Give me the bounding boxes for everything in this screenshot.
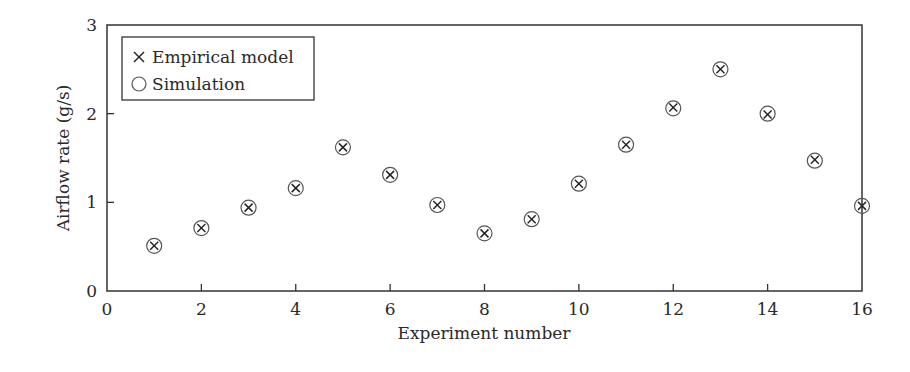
empirical-model-point	[433, 201, 441, 209]
empirical-model-point	[245, 204, 253, 212]
empirical-model-point	[764, 111, 772, 119]
scatter-chart: 02468101214160123 Experiment number Airf…	[0, 0, 910, 372]
legend-label-simulation: Simulation	[152, 74, 245, 94]
y-tick-label: 0	[86, 281, 97, 301]
x-tick-label: 8	[479, 299, 490, 319]
empirical-model-point	[481, 229, 489, 237]
x-tick-label: 4	[290, 299, 301, 319]
legend: Empirical model Simulation	[122, 37, 314, 100]
y-axis-title: Airflow rate (g/s)	[53, 85, 73, 233]
y-tick-label: 2	[86, 104, 97, 124]
empirical-model-point	[197, 224, 205, 232]
empirical-model-point	[150, 242, 158, 250]
y-tick-label: 1	[86, 192, 97, 212]
x-tick-label: 6	[385, 299, 396, 319]
empirical-model-point	[811, 156, 819, 164]
x-tick-label: 14	[757, 299, 779, 319]
empirical-model-point	[339, 143, 347, 151]
empirical-model-point	[669, 103, 677, 111]
legend-item-empirical-model: Empirical model	[134, 47, 294, 67]
empirical-model-point	[622, 141, 630, 149]
empirical-model-point	[575, 180, 583, 188]
empirical-model-point	[716, 65, 724, 73]
empirical-model-point	[292, 184, 300, 192]
y-tick-label: 3	[86, 15, 97, 35]
x-tick-label: 12	[662, 299, 684, 319]
empirical-model-point	[386, 171, 394, 179]
x-tick-label: 2	[196, 299, 207, 319]
x-tick-label: 16	[851, 299, 873, 319]
x-axis-title: Experiment number	[398, 323, 572, 343]
legend-label-empirical-model: Empirical model	[152, 47, 294, 67]
x-tick-label: 0	[102, 299, 113, 319]
empirical-model-point	[528, 215, 536, 223]
x-tick-label: 10	[568, 299, 590, 319]
